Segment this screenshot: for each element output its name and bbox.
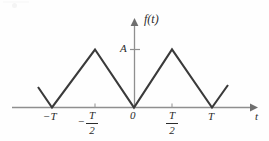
x-tick-label-half-period: T 2 (166, 110, 178, 136)
x-tick-label-neg-half-period-minus: − (78, 115, 84, 127)
x-tick-label-neg-half-period-numerator: T (86, 110, 98, 122)
x-tick-label-neg-half-period-denominator: 2 (86, 125, 98, 137)
y-axis-arrowhead (131, 18, 139, 26)
origin-label: 0 (130, 110, 136, 121)
x-tick-label-half-period-numerator: T (166, 110, 178, 122)
x-axis-label: t (255, 111, 258, 122)
triangular-wave-figure: f(t) A t −T − T 2 0 T 2 T (0, 0, 269, 141)
x-tick-label-neg-half-period: − T 2 (86, 110, 98, 136)
y-axis-label: f(t) (144, 13, 159, 25)
x-tick-label-half-period-denominator: 2 (166, 125, 178, 137)
waveform-curve (38, 50, 228, 108)
amplitude-label: A (120, 43, 127, 54)
x-tick-label-period: T (208, 111, 214, 122)
x-tick-label-neg-period: −T (43, 111, 57, 122)
